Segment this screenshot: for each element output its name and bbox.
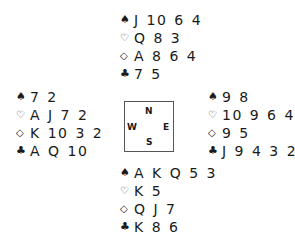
diamond-icon: ◇: [120, 200, 134, 218]
north-spades: ♠J 10 6 4: [120, 11, 202, 29]
south-clubs-cards: K 8 6: [134, 218, 179, 236]
south-clubs: ♣K 8 6: [120, 218, 217, 236]
compass-south-label: S: [146, 137, 152, 147]
compass-box: N W E S: [124, 101, 174, 152]
west-clubs: ♣A Q 10: [16, 142, 103, 160]
east-hearts-cards: 10 9 6 4: [222, 106, 295, 124]
west-spades-cards: 7 2: [30, 88, 58, 106]
club-icon: ♣: [16, 142, 30, 160]
west-diamonds: ◇K 10 3 2: [16, 124, 103, 142]
south-diamonds-cards: Q J 7: [134, 200, 176, 218]
south-hearts-cards: K 5: [134, 182, 162, 200]
heart-icon: ♡: [208, 106, 222, 124]
spade-icon: ♠: [120, 164, 134, 182]
west-spades: ♠7 2: [16, 88, 103, 106]
compass-east-label: E: [163, 122, 169, 132]
diamond-icon: ◇: [120, 47, 134, 65]
east-spades: ♠9 8: [208, 88, 295, 106]
north-clubs-cards: 7 5: [134, 65, 162, 83]
east-hearts: ♡10 9 6 4: [208, 106, 295, 124]
east-diamonds-cards: 9 5: [222, 124, 250, 142]
east-clubs: ♣J 9 4 3 2: [208, 142, 295, 160]
west-hearts: ♡A J 7 2: [16, 106, 103, 124]
heart-icon: ♡: [120, 182, 134, 200]
north-spades-cards: J 10 6 4: [134, 11, 202, 29]
south-diamonds: ◇Q J 7: [120, 200, 217, 218]
north-clubs: ♣7 5: [120, 65, 202, 83]
north-diamonds-cards: A 8 6 4: [134, 47, 197, 65]
east-diamonds: ◇9 5: [208, 124, 295, 142]
club-icon: ♣: [120, 218, 134, 236]
east-spades-cards: 9 8: [222, 88, 250, 106]
south-spades-cards: A K Q 5 3: [134, 164, 217, 182]
west-diamonds-cards: K 10 3 2: [30, 124, 103, 142]
west-hearts-cards: A J 7 2: [30, 106, 88, 124]
north-hand: ♠J 10 6 4 ♡Q 8 3 ◇A 8 6 4 ♣7 5: [120, 11, 202, 83]
diamond-icon: ◇: [208, 124, 222, 142]
east-clubs-cards: J 9 4 3 2: [222, 142, 295, 160]
north-hearts: ♡Q 8 3: [120, 29, 202, 47]
west-clubs-cards: A Q 10: [30, 142, 88, 160]
south-hand: ♠A K Q 5 3 ♡K 5 ◇Q J 7 ♣K 8 6: [120, 164, 217, 236]
south-hearts: ♡K 5: [120, 182, 217, 200]
spade-icon: ♠: [208, 88, 222, 106]
spade-icon: ♠: [120, 11, 134, 29]
diamond-icon: ◇: [16, 124, 30, 142]
south-spades: ♠A K Q 5 3: [120, 164, 217, 182]
west-hand: ♠7 2 ♡A J 7 2 ◇K 10 3 2 ♣A Q 10: [16, 88, 103, 160]
spade-icon: ♠: [16, 88, 30, 106]
compass-west-label: W: [127, 122, 137, 132]
club-icon: ♣: [208, 142, 222, 160]
east-hand: ♠9 8 ♡10 9 6 4 ◇9 5 ♣J 9 4 3 2: [208, 88, 295, 160]
heart-icon: ♡: [120, 29, 134, 47]
heart-icon: ♡: [16, 106, 30, 124]
compass-north-label: N: [145, 106, 153, 116]
north-diamonds: ◇A 8 6 4: [120, 47, 202, 65]
club-icon: ♣: [120, 65, 134, 83]
north-hearts-cards: Q 8 3: [134, 29, 181, 47]
